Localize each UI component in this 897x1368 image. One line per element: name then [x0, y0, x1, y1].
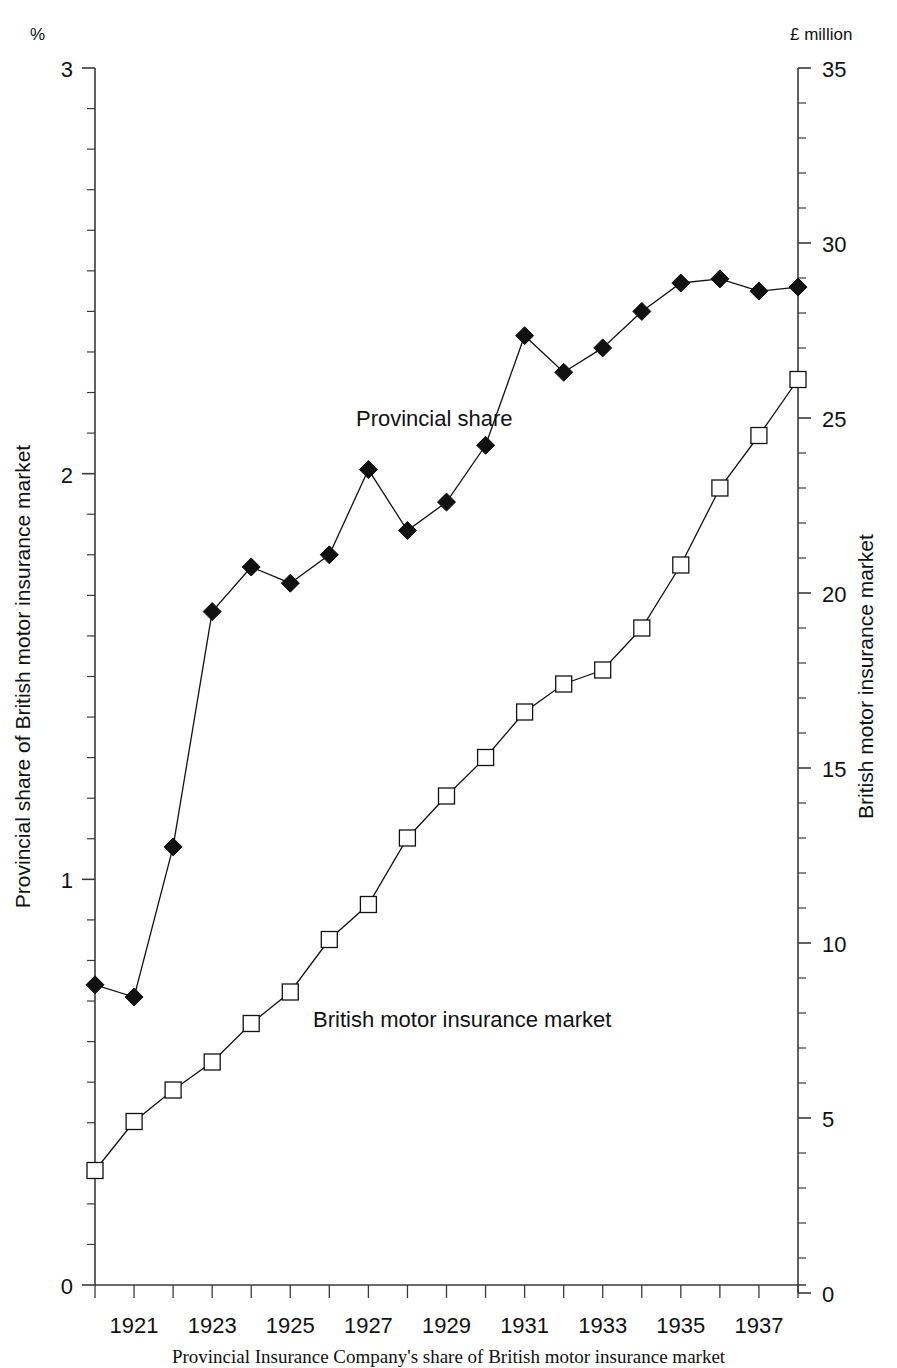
data-point-marker	[321, 932, 337, 948]
data-point-marker	[243, 1016, 259, 1032]
x-axis-tick-label: 1923	[188, 1313, 237, 1338]
data-point-marker	[556, 676, 572, 692]
data-point-marker	[126, 1114, 142, 1130]
data-point-marker	[204, 1054, 220, 1070]
data-point-marker	[634, 620, 650, 636]
right-axis-tick-label: 20	[822, 582, 846, 607]
data-point-marker	[712, 480, 728, 496]
x-axis-tick-label: 1921	[110, 1313, 159, 1338]
x-axis-tick-label: 1933	[578, 1313, 627, 1338]
data-point-marker	[477, 436, 495, 454]
series-label-market: British motor insurance market	[313, 1007, 611, 1032]
data-point-marker	[320, 546, 338, 564]
data-point-marker	[359, 461, 377, 479]
data-point-marker	[281, 574, 299, 592]
data-point-marker	[399, 830, 415, 846]
x-axis-tick-label: 1927	[344, 1313, 393, 1338]
right-axis-unit-label: £ million	[790, 25, 852, 44]
right-axis-tick-label: 30	[822, 232, 846, 257]
data-point-marker	[164, 838, 182, 856]
data-point-marker	[398, 522, 416, 540]
data-point-marker	[282, 984, 298, 1000]
x-axis-tick-label: 1935	[656, 1313, 705, 1338]
x-axis-tick-label: 1931	[500, 1313, 549, 1338]
data-point-marker	[751, 428, 767, 444]
data-point-marker	[439, 788, 455, 804]
data-point-marker	[711, 270, 729, 288]
right-axis-tick-label: 5	[822, 1107, 834, 1132]
data-point-marker	[517, 704, 533, 720]
left-axis-tick-label: 2	[61, 463, 73, 488]
left-axis-tick-label: 3	[61, 57, 73, 82]
data-point-marker	[478, 750, 494, 766]
series-line-0	[95, 279, 798, 997]
right-axis-title: British motor insurance market	[854, 534, 877, 819]
x-axis-tick-label: 1929	[422, 1313, 471, 1338]
data-point-marker	[750, 282, 768, 300]
data-point-marker	[673, 557, 689, 573]
right-axis-tick-label: 25	[822, 407, 846, 432]
right-axis-tick-label: 0	[822, 1282, 834, 1307]
left-axis-tick-label: 1	[61, 868, 73, 893]
data-point-marker	[165, 1082, 181, 1098]
x-axis-tick-label: 1937	[734, 1313, 783, 1338]
chart-canvas: 0123%Provincial share of British motor i…	[0, 0, 897, 1340]
data-point-marker	[87, 1163, 103, 1179]
data-point-marker	[789, 278, 807, 296]
left-axis-unit-label: %	[30, 25, 45, 44]
x-axis-tick-label: 1925	[266, 1313, 315, 1338]
data-point-marker	[438, 493, 456, 511]
left-axis-title: Provincial share of British motor insura…	[11, 445, 34, 909]
data-point-marker	[595, 662, 611, 678]
right-axis-tick-label: 15	[822, 757, 846, 782]
data-point-marker	[360, 897, 376, 913]
data-point-marker	[790, 372, 806, 388]
right-axis-tick-label: 35	[822, 57, 846, 82]
data-point-marker	[86, 976, 104, 994]
right-axis-tick-label: 10	[822, 932, 846, 957]
data-point-marker	[125, 988, 143, 1006]
data-point-marker	[672, 274, 690, 292]
series-label-provincial: Provincial share	[356, 406, 513, 431]
left-axis-tick-label: 0	[61, 1274, 73, 1299]
figure-caption: Provincial Insurance Company's share of …	[0, 1346, 897, 1368]
